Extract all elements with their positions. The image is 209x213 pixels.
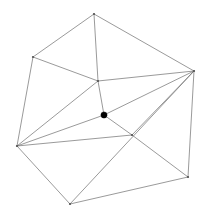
- graph-diagram: [0, 0, 209, 213]
- graph-edge-mid-right-to-bottom-right: [132, 135, 188, 177]
- graph-edge-interior-up-to-right: [98, 71, 194, 81]
- graph-node-right: [193, 70, 195, 72]
- graph-edge-right-to-bottom: [70, 71, 194, 204]
- graph-edge-right-to-bottom-right: [188, 71, 194, 177]
- graph-edge-interior-up-to-bottom-left: [17, 81, 98, 146]
- graph-node-bottom-left: [16, 145, 18, 147]
- graph-edge-bottom-to-bottom-right: [70, 177, 188, 204]
- graph-node-upper-left: [32, 56, 34, 58]
- node-layer: [16, 13, 195, 205]
- graph-node-mid-right: [131, 134, 133, 136]
- graph-edge-apex-to-upper-left: [33, 14, 94, 57]
- graph-edge-marked-dot-to-mid-right: [104, 115, 132, 135]
- graph-edge-apex-to-interior-up: [94, 14, 98, 81]
- graph-edge-upper-left-to-bottom-left: [17, 57, 33, 146]
- graph-edge-bottom-left-to-bottom: [17, 146, 70, 204]
- edge-layer: [17, 14, 194, 204]
- figure-canvas: [0, 0, 209, 213]
- graph-edge-marked-dot-to-bottom-left: [17, 115, 104, 146]
- graph-edge-apex-to-right: [94, 14, 194, 71]
- graph-edge-interior-up-to-marked-dot: [98, 81, 104, 115]
- graph-edge-upper-left-to-interior-up: [33, 57, 98, 81]
- graph-edge-bottom-left-to-mid-right: [17, 135, 132, 146]
- graph-node-marked-marked-dot: [101, 112, 107, 118]
- graph-edge-right-to-marked-dot: [104, 71, 194, 115]
- graph-node-interior-up: [97, 80, 99, 82]
- graph-node-apex: [93, 13, 95, 15]
- graph-node-bottom: [69, 203, 71, 205]
- graph-node-bottom-right: [187, 176, 189, 178]
